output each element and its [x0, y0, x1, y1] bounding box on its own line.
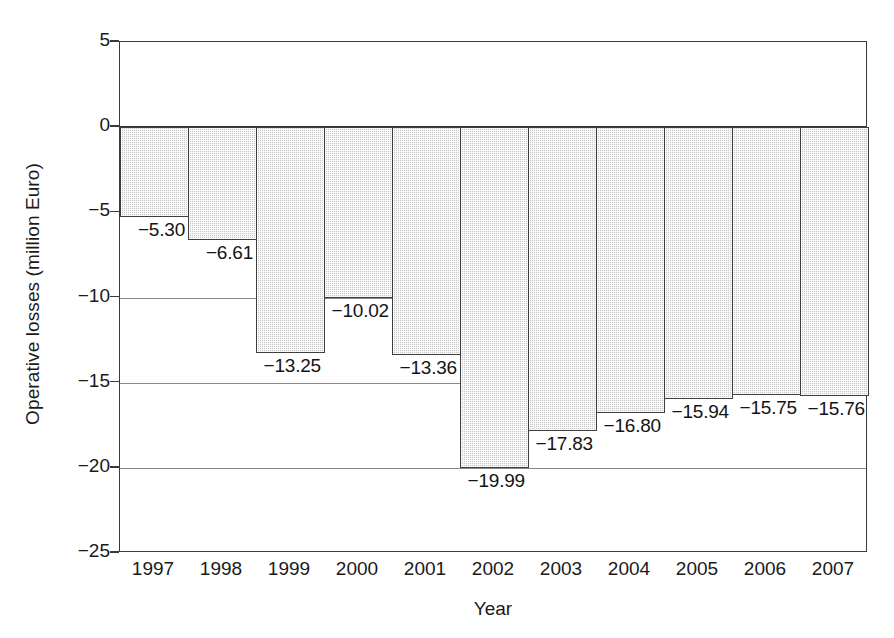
x-tick-label-2000: 2000	[323, 558, 391, 580]
x-tick-label-2004: 2004	[595, 558, 663, 580]
x-axis-title: Year	[119, 598, 867, 620]
bar-label-1997: −5.30	[120, 219, 185, 241]
figure: Operative losses (million Euro) 50−5−10−…	[0, 0, 894, 638]
y-tick-5	[110, 40, 119, 42]
bar-label-2005: −15.94	[664, 401, 729, 423]
y-tick--20	[110, 466, 119, 468]
x-tick-label-2002: 2002	[459, 558, 527, 580]
x-tick-label-2006: 2006	[731, 558, 799, 580]
y-tick--5	[110, 211, 119, 213]
y-tick-label: −10	[40, 285, 110, 307]
bar-2006	[732, 127, 801, 395]
y-tick-label: −15	[40, 370, 110, 392]
bar-label-1999: −13.25	[256, 355, 321, 377]
y-tick-label: −5	[40, 199, 110, 221]
y-tick-label: −25	[40, 540, 110, 562]
y-tick-label: 0	[40, 114, 110, 136]
bar-label-2007: −15.76	[800, 398, 865, 420]
bar-label-2003: −17.83	[528, 433, 593, 455]
bar-label-2002: −19.99	[460, 470, 525, 492]
y-tick-label: −20	[40, 455, 110, 477]
bar-1999	[256, 127, 325, 353]
x-tick-label-1998: 1998	[187, 558, 255, 580]
bar-1997	[120, 127, 189, 217]
bar-2007	[800, 127, 869, 395]
bar-label-2006: −15.75	[732, 397, 797, 419]
bar-label-2000: −10.02	[324, 300, 389, 322]
bar-label-2001: −13.36	[392, 357, 457, 379]
x-tick-label-2001: 2001	[391, 558, 459, 580]
y-tick-label: 5	[40, 29, 110, 51]
y-tick--15	[110, 381, 119, 383]
bar-2000	[324, 127, 393, 298]
x-tick-label-1997: 1997	[119, 558, 187, 580]
y-tick-0	[110, 125, 119, 127]
bar-label-2004: −16.80	[596, 415, 661, 437]
bar-2004	[596, 127, 665, 413]
x-tick-label-1999: 1999	[255, 558, 323, 580]
bar-label-1998: −6.61	[188, 242, 253, 264]
bar-2003	[528, 127, 597, 431]
bar-2001	[392, 127, 461, 355]
bar-2005	[664, 127, 733, 399]
x-tick-label-2003: 2003	[527, 558, 595, 580]
y-tick--25	[110, 551, 119, 553]
x-tick-label-2005: 2005	[663, 558, 731, 580]
x-tick-label-2007: 2007	[799, 558, 867, 580]
y-tick--10	[110, 296, 119, 298]
bar-1998	[188, 127, 257, 240]
bar-2002	[460, 127, 529, 467]
